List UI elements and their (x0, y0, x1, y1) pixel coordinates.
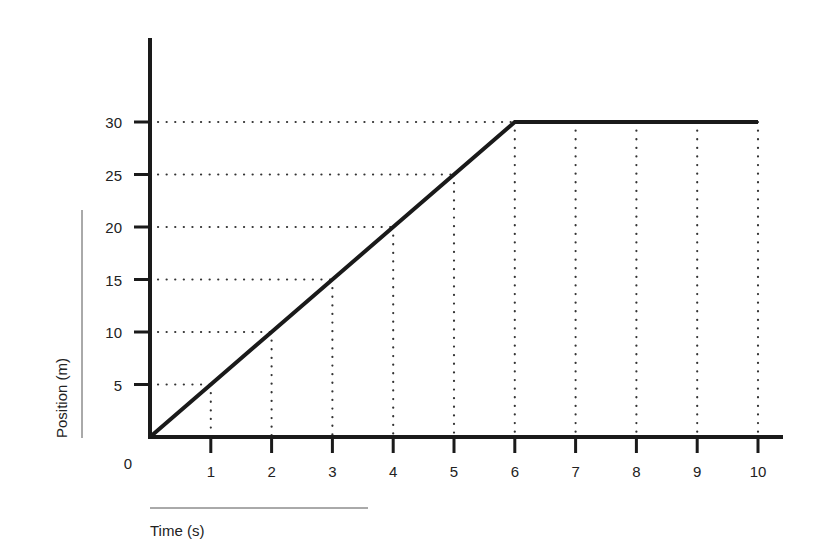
origin-label: 0 (124, 455, 132, 472)
position-time-chart: 12345678910 51015202530 0 Time (s) Posit… (0, 0, 820, 557)
axes (148, 38, 783, 439)
x-axis-ticks: 12345678910 (207, 437, 767, 480)
x-tick-label: 10 (750, 463, 767, 480)
x-tick-label: 8 (632, 463, 640, 480)
y-axis-title: Position (m) (53, 358, 70, 438)
y-tick-label: 20 (105, 219, 122, 236)
y-tick-label: 25 (105, 167, 122, 184)
x-tick-label: 4 (389, 463, 397, 480)
x-axis-title: Time (s) (150, 522, 204, 539)
x-tick-label: 3 (328, 463, 336, 480)
x-tick-label: 5 (450, 463, 458, 480)
y-axis-ticks: 51015202530 (105, 114, 150, 394)
x-tick-label: 1 (207, 463, 215, 480)
y-tick-label: 10 (105, 324, 122, 341)
x-tick-label: 9 (693, 463, 701, 480)
x-tick-label: 7 (571, 463, 579, 480)
x-tick-label: 6 (511, 463, 519, 480)
y-tick-label: 15 (105, 272, 122, 289)
x-tick-label: 2 (267, 463, 275, 480)
y-tick-label: 30 (105, 114, 122, 131)
y-tick-label: 5 (114, 377, 122, 394)
